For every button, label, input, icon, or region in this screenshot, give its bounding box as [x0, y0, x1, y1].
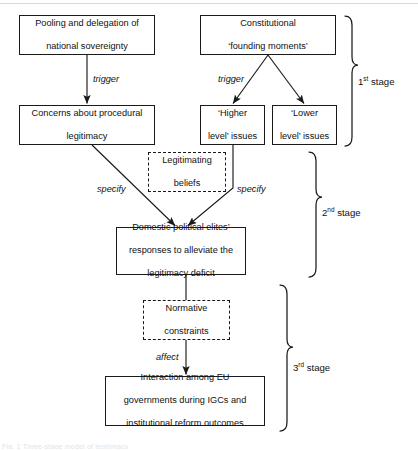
node-higher-line-1: ‘Higher: [208, 108, 257, 120]
stage-2-word: stage: [337, 207, 360, 218]
edge-label-trigger-left: trigger: [93, 74, 119, 84]
node-interaction-line-1: Interaction among EU: [124, 372, 247, 384]
node-pooling: Pooling and delegation ofnational sovere…: [19, 15, 155, 55]
node-higher-level-issues: ‘Higherlevel’ issues: [200, 105, 265, 145]
node-constitutional-line-2: ‘founding moments’: [228, 41, 308, 53]
node-interaction-eu-governments: Interaction among EUgovernments during I…: [105, 376, 265, 426]
node-concerns: Concerns about procedurallegitimacy: [19, 105, 155, 145]
node-normative-line-2: constraints: [164, 326, 208, 338]
node-legitimating-beliefs: Legitimatingbeliefs: [148, 152, 226, 192]
node-constitutional-line-1: Constitutional: [228, 18, 308, 30]
node-concerns-line-2: legitimacy: [32, 131, 143, 143]
node-domestic-elites: Domestic political elites’responses to a…: [116, 227, 246, 275]
node-pooling-line-2: national sovereignty: [35, 41, 139, 53]
edge-label-trigger-right: trigger: [218, 74, 244, 84]
node-interaction-line-3: institutional reform outcomes: [124, 418, 247, 430]
node-domestic-line-3: legitimacy deficit: [129, 268, 233, 280]
edge-constitutional-to-lower: [268, 55, 304, 104]
node-pooling-line-1: Pooling and delegation of: [35, 18, 139, 30]
brace-stage-1: [345, 16, 358, 146]
figure-caption-fragment: Fig. 1 Three-stage model of legitimacy: [2, 443, 172, 449]
brace-stage-3: [280, 285, 293, 431]
edge-label-affect: affect: [156, 352, 178, 362]
stage-1-suffix: st: [363, 75, 368, 82]
edge-label-specify-left: specify: [97, 184, 126, 194]
stage-3-suffix: rd: [298, 361, 304, 368]
stage-3-word: stage: [307, 362, 330, 373]
figure-canvas: Pooling and delegation ofnational sovere…: [0, 0, 418, 450]
node-domestic-line-2: responses to alleviate the: [129, 245, 233, 257]
node-constitutional: Constitutional‘founding moments’: [200, 15, 336, 55]
brace-stage-2: [309, 152, 322, 277]
node-legitimating-line-1: Legitimating: [162, 155, 212, 167]
stage-2-suffix: nd: [327, 206, 334, 213]
node-interaction-line-2: governments during IGCs and: [124, 395, 247, 407]
node-normative-constraints: Normativeconstraints: [143, 300, 230, 340]
node-concerns-line-1: Concerns about procedural: [32, 108, 143, 120]
node-lower-line-2: level’ issues: [280, 131, 329, 143]
stage-1-word: stage: [371, 76, 394, 87]
node-lower-level-issues: ‘Lowerlevel’ issues: [272, 105, 337, 145]
node-lower-line-1: ‘Lower: [280, 108, 329, 120]
stage-label-1: 1st stage: [358, 76, 394, 87]
stage-label-3: 3rd stage: [293, 362, 330, 373]
node-legitimating-line-2: beliefs: [162, 178, 212, 190]
stage-label-2: 2nd stage: [322, 207, 361, 218]
node-normative-line-1: Normative: [164, 303, 208, 315]
node-higher-line-2: level’ issues: [208, 131, 257, 143]
node-domestic-line-1: Domestic political elites’: [129, 222, 233, 234]
edge-label-specify-right: specify: [237, 184, 266, 194]
